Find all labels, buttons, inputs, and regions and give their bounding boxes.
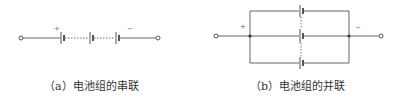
- battery-cell: [61, 32, 64, 44]
- battery-cell: [90, 32, 93, 44]
- caption-series: （a）电池组的串联: [44, 77, 139, 93]
- battery-cell: [116, 32, 119, 44]
- junction-dot: [248, 34, 251, 37]
- parallel-circuit: [214, 5, 383, 69]
- terminal-left: [214, 34, 218, 38]
- minus-label-series: −: [127, 25, 133, 33]
- battery-cell: [300, 29, 303, 43]
- terminal-right: [379, 34, 383, 38]
- plus-label-parallel: +: [240, 23, 246, 31]
- series-circuit: [19, 32, 160, 44]
- battery-cell: [300, 5, 303, 17]
- plus-label-series: +: [54, 25, 60, 33]
- battery-cell: [300, 57, 303, 69]
- terminal-left: [19, 36, 23, 40]
- minus-label-parallel: −: [355, 24, 361, 32]
- terminal-right: [156, 36, 160, 40]
- caption-parallel: （b）电池组的并联: [250, 77, 345, 93]
